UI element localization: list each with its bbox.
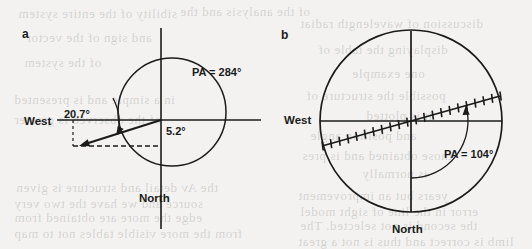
tick-mark	[492, 94, 493, 103]
panel-b-label: b	[281, 28, 288, 42]
tick-mark	[475, 99, 476, 108]
tick-mark	[381, 125, 382, 134]
panel-b-drawing	[0, 0, 532, 249]
panel-b-position-angle-label: PA = 104°	[444, 148, 493, 160]
tick-mark	[432, 111, 433, 120]
tick-mark	[458, 103, 459, 112]
tick-mark	[407, 118, 408, 127]
tick-mark	[483, 96, 484, 105]
tick-mark	[390, 122, 391, 131]
tick-mark	[364, 130, 365, 139]
tick-mark	[339, 137, 340, 146]
panel-b-west-label: West	[284, 114, 311, 126]
tick-mark	[356, 132, 357, 141]
tick-mark	[347, 134, 348, 143]
panel-b-position-angle-arc	[411, 106, 468, 178]
tick-mark	[441, 108, 442, 117]
tick-mark	[373, 127, 374, 136]
panel-b-north-label: North	[392, 223, 423, 235]
tick-mark	[330, 139, 331, 148]
figure-container: sibility of the entire systemof the anal…	[0, 0, 532, 249]
tick-mark	[449, 106, 450, 115]
tick-mark	[415, 115, 416, 124]
